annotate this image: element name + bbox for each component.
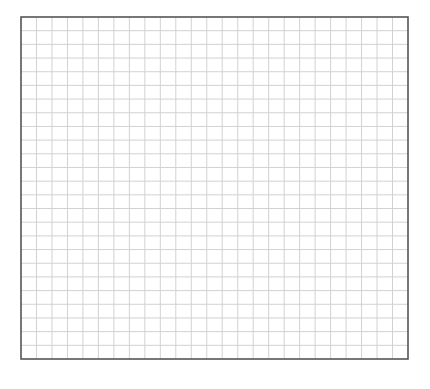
grid-paper [0, 0, 430, 389]
grid-background [21, 17, 408, 359]
